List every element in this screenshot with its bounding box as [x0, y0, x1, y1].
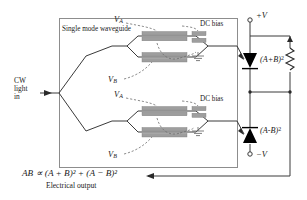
- upper-vb-label: VB: [108, 76, 117, 85]
- upper-detector-signal-label: (A+B)2: [260, 55, 284, 65]
- output-equation: AB ∝ (A + B)² + (A − B)²: [22, 169, 117, 179]
- upper-va-label: VA: [114, 16, 123, 25]
- upper-ground-icon: [192, 52, 204, 61]
- upper-dc-bias-label: DC bias: [200, 21, 223, 29]
- output-caption: Electrical output: [46, 182, 96, 190]
- output-arrow-icon: [146, 173, 154, 179]
- lower-photodiode-icon: [242, 128, 258, 143]
- negative-supply-label: −V: [256, 150, 267, 159]
- positive-supply-terminal: [248, 18, 252, 22]
- input-arrow-icon: [44, 90, 52, 96]
- input-label-line3: in: [14, 92, 20, 101]
- figure-canvas: Single mode waveguide CW light in VA VB …: [0, 0, 307, 200]
- lower-va-label: VA: [114, 91, 123, 100]
- mid-node-dot: [248, 90, 251, 93]
- resistor-icon: [286, 48, 294, 70]
- input-label: CW light in: [14, 77, 28, 100]
- input-waveguide: [40, 46, 112, 131]
- right-node-dot: [288, 90, 291, 93]
- lower-dc-bias-label: DC bias: [200, 96, 223, 104]
- lower-vb-label: VB: [108, 151, 117, 160]
- upper-photodiode-icon: [242, 53, 258, 69]
- resistor-arrow-icon: [287, 36, 293, 42]
- negative-supply-terminal: [248, 152, 252, 156]
- chip-label: Single mode waveguide: [62, 26, 131, 34]
- lower-ground-icon: [192, 127, 204, 136]
- lower-detector-signal-label: (A-B)2: [260, 126, 281, 136]
- positive-supply-label: +V: [256, 11, 267, 20]
